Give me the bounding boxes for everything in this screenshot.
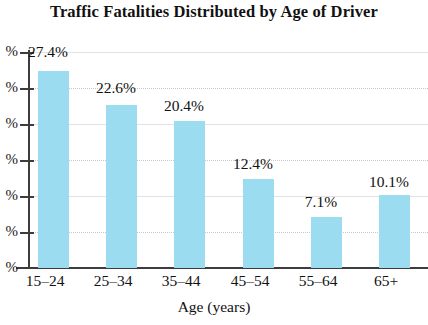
bar-55-64: [311, 217, 342, 268]
bar-15-24: [38, 71, 69, 268]
y-axis-tick-label: %: [0, 115, 18, 132]
x-axis-category-label-25-34: 25–34: [76, 272, 150, 290]
x-axis-category-label-55-64: 55–64: [281, 272, 355, 290]
x-axis-category-label-45-54: 45–54: [213, 272, 287, 290]
bar-value-label-45-54: 12.4%: [223, 155, 283, 173]
y-axis-tick-label: %: [0, 223, 18, 240]
bar-value-label-15-24: 27.4%: [18, 43, 78, 61]
x-axis-category-label-15-24: 15–24: [8, 272, 82, 290]
bar-value-label-65-plus: 10.1%: [359, 173, 419, 191]
x-axis-title: Age (years): [0, 298, 428, 316]
bar-value-label-35-44: 20.4%: [154, 97, 214, 115]
y-axis-tick-label: %: [0, 79, 18, 96]
chart-title: Traffic Fatalities Distributed by Age of…: [0, 2, 428, 22]
bar-25-34: [106, 105, 137, 268]
bar-chart-figure: Traffic Fatalities Distributed by Age of…: [0, 0, 428, 325]
bar-35-44: [174, 121, 205, 268]
x-axis-category-label-35-44: 35–44: [144, 272, 218, 290]
bar-value-label-25-34: 22.6%: [86, 79, 146, 97]
y-axis-tick-label: %: [0, 187, 18, 204]
y-axis-tick-label: %: [0, 151, 18, 168]
bar-65-plus: [379, 195, 410, 268]
bar-45-54: [243, 179, 274, 268]
x-axis-category-label-65-plus: 65+: [349, 272, 423, 290]
bar-value-label-55-64: 7.1%: [291, 193, 351, 211]
y-axis-tick-label: %: [0, 43, 18, 60]
